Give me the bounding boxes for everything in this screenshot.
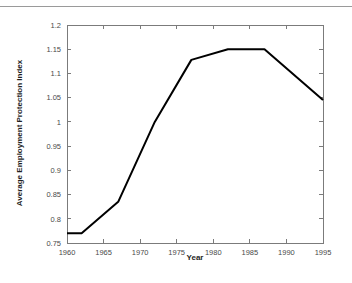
y-tick-label: 0.95	[46, 142, 61, 151]
x-tick-label: 1980	[205, 248, 222, 257]
top-divider	[0, 6, 352, 7]
x-tick-label: 1965	[95, 248, 112, 257]
y-tick-label: 1.15	[46, 45, 61, 54]
x-axis-title: Year	[187, 253, 204, 262]
x-tick-label: 1975	[168, 248, 185, 257]
axis-tick-marks	[67, 25, 323, 243]
x-tick-label: 1990	[278, 248, 295, 257]
x-tick-label: 1995	[315, 248, 332, 257]
y-tick-label: 1.2	[51, 21, 61, 30]
chart-figure: 0.750.80.850.90.9511.051.11.151.2 196019…	[0, 8, 352, 283]
y-tick-label: 1.1	[51, 69, 61, 78]
x-tick-label: 1985	[242, 248, 259, 257]
y-tick-label: 0.85	[46, 190, 61, 199]
plot-frame	[67, 25, 323, 243]
y-tick-label: 0.9	[51, 166, 61, 175]
y-tick-label: 0.8	[51, 215, 61, 224]
y-tick-label: 0.75	[46, 239, 61, 248]
line-chart: 0.750.80.850.90.9511.051.11.151.2 196019…	[0, 8, 352, 283]
series-line-employment-protection-index	[67, 49, 323, 233]
x-tick-label: 1960	[59, 248, 76, 257]
y-axis-tick-labels: 0.750.80.850.90.9511.051.11.151.2	[46, 21, 61, 248]
y-tick-label: 1.05	[46, 93, 61, 102]
x-tick-label: 1970	[132, 248, 149, 257]
y-tick-label: 1	[57, 118, 61, 127]
y-axis-title: Average Employment Protection Index	[15, 59, 24, 206]
